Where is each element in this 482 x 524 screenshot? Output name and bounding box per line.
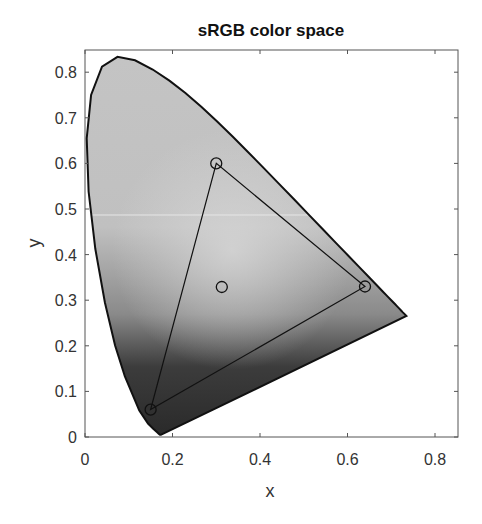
x-tick-label: 0.6 <box>336 451 358 468</box>
x-tick-label: 0 <box>81 451 90 468</box>
y-tick-label: 0.2 <box>55 338 77 355</box>
y-tick-label: 0.4 <box>55 247 77 264</box>
x-tick-label: 0.8 <box>424 451 446 468</box>
y-tick-label: 0.6 <box>55 155 77 172</box>
y-tick-label: 0.3 <box>55 292 77 309</box>
y-tick-label: 0.1 <box>55 383 77 400</box>
y-tick-label: 0 <box>68 429 77 446</box>
y-tick-label: 0.5 <box>55 201 77 218</box>
x-tick-label: 0.4 <box>249 451 271 468</box>
chart-title: sRGB color space <box>198 21 344 40</box>
y-tick-label: 0.8 <box>55 64 77 81</box>
chart: sRGB color space 00.20.40.60.8 00.10.20.… <box>0 0 482 524</box>
y-axis-label: y <box>24 239 44 248</box>
x-axis-label: x <box>266 481 275 501</box>
x-tick-label: 0.2 <box>161 451 183 468</box>
y-tick-label: 0.7 <box>55 110 77 127</box>
